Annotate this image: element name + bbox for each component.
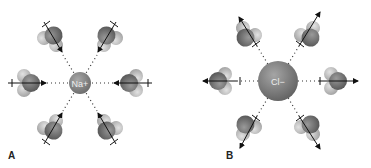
water-molecule bbox=[291, 110, 327, 144]
panel-b: Cl− bbox=[203, 12, 358, 149]
water-molecule bbox=[90, 21, 126, 55]
water-molecule bbox=[229, 110, 265, 144]
sodium-ion: Na+ bbox=[69, 72, 91, 94]
chloride-ion-label: Cl− bbox=[271, 77, 285, 87]
water-molecule bbox=[34, 111, 70, 145]
panel-label-a: A bbox=[8, 150, 15, 161]
sodium-ion-label: Na+ bbox=[72, 79, 89, 89]
water-molecule bbox=[34, 21, 70, 55]
panel-label-b: B bbox=[226, 150, 233, 161]
hydration-diagram: Na+ bbox=[0, 0, 371, 168]
water-molecule bbox=[291, 18, 327, 52]
chloride-ion: Cl− bbox=[258, 61, 298, 101]
water-molecule bbox=[90, 111, 126, 145]
water-molecule bbox=[229, 18, 265, 52]
panel-a: Na+ bbox=[8, 21, 152, 146]
